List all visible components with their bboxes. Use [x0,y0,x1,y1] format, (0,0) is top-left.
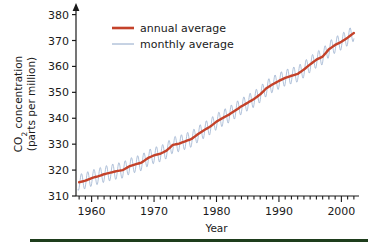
legend-label-2: monthly average [140,38,234,51]
monthly-average-line [78,28,354,190]
legend-label-1: annual average [140,22,226,35]
y-axis-tick-label: 320 [48,164,69,177]
chart-canvas: 3103203303403503603703801960197019801990… [0,0,368,247]
annual-average-line [79,33,354,182]
y-axis-tick-label: 360 [48,60,69,73]
x-axis-tick-label: 2000 [327,205,355,218]
y-axis-title: CO2 concentration(parts per million) [12,56,37,152]
footer-rule [30,239,368,242]
co2-concentration-chart: 3103203303403503603703801960197019801990… [0,0,368,247]
svg-text:(parts per million): (parts per million) [25,57,37,151]
x-axis-tick-label: 1960 [78,205,106,218]
x-axis-tick-label: 1990 [265,205,293,218]
y-axis-tick-label: 340 [48,112,69,125]
y-axis-tick-label: 350 [48,86,69,99]
x-axis-tick-label: 1980 [203,205,231,218]
y-axis-arrow-icon [73,3,80,11]
y-axis-tick-label: 330 [48,138,69,151]
x-axis-tick-label: 1970 [140,205,168,218]
y-axis-tick-label: 310 [48,190,69,203]
x-axis-title: Year [204,222,228,234]
y-axis-tick-label: 380 [48,9,69,22]
y-axis-tick-label: 370 [48,35,69,48]
